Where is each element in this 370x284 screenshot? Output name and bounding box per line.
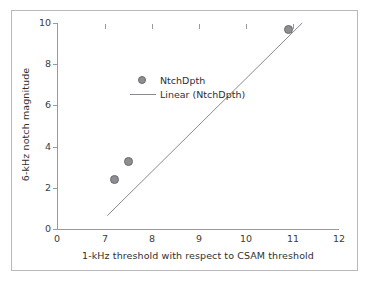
legend-entry-ntchdpth[interactable]: NtchDpth [128,73,258,87]
x-axis-line [57,229,339,230]
x-tick-label: 12 [333,234,345,244]
y-tick-label: 2 [45,183,51,193]
figure: 0 2 4 6 8 10 0 7 8 9 10 11 12 [0,0,370,284]
y-tick-label: 6 [45,101,51,111]
legend-line-key [128,88,158,100]
linear-trendline [57,23,338,229]
legend-marker-key [128,74,158,86]
y-axis-tick [53,229,58,230]
chart-legend: NtchDpth Linear (NtchDpth) [128,73,258,101]
x-tick-label: 7 [102,234,108,244]
x-tick-label: 9 [196,234,202,244]
x-axis-tick-labels: 0 7 8 9 10 11 12 [57,234,339,248]
x-axis-title: 1-kHz threshold with respect to CSAM thr… [57,250,339,261]
x-tick-label: 8 [149,234,155,244]
y-axis-title: 6-kHz notch magnitude [20,22,31,228]
legend-entry-linear-ntchdpth[interactable]: Linear (NtchDpth) [128,87,258,101]
circle-marker-icon [138,76,146,84]
y-tick-label: 10 [39,18,51,28]
data-point[interactable] [284,25,293,34]
legend-label: NtchDpth [158,75,205,86]
y-tick-label: 8 [45,59,51,69]
y-tick-label: 4 [45,142,51,152]
y-tick-label: 0 [45,224,51,234]
data-point[interactable] [110,175,119,184]
plot-area: NtchDpth Linear (NtchDpth) [57,23,338,229]
data-point[interactable] [124,157,133,166]
x-tick-label: 0 [54,234,60,244]
legend-label: Linear (NtchDpth) [158,89,245,100]
line-swatch-icon [130,94,156,95]
y-axis-tick-labels: 0 2 4 6 8 10 [30,23,51,229]
x-tick-label: 11 [287,234,299,244]
x-tick-label: 10 [240,234,252,244]
data-layer [57,23,338,229]
